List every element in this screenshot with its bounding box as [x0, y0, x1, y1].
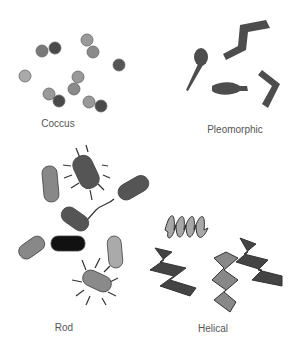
- bacteria-shapes-diagram: [0, 0, 304, 350]
- label-pleomorphic: Pleomorphic: [207, 124, 263, 135]
- helical-cells: [150, 216, 282, 312]
- label-rod: Rod: [55, 322, 73, 333]
- label-coccus: Coccus: [41, 118, 74, 129]
- coccus-cells: [19, 34, 125, 112]
- rod-cells: [16, 145, 152, 305]
- label-helical: Helical: [198, 323, 228, 334]
- pleomorphic-cells: [186, 20, 280, 108]
